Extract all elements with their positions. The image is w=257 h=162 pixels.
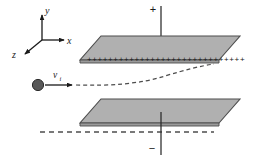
x-axis-label: x [66,35,72,46]
initial-velocity-label: v [53,70,58,80]
bottom-plate-group [80,99,240,126]
y-axis-label: y [44,5,50,16]
figure-canvas: y x z + ++++++++++++++++++++++++++++++ v… [0,0,257,162]
bottom-plate-front-edge [80,123,219,126]
positive-terminal-label: + [150,3,156,15]
charged-particle [32,79,43,90]
negative-terminal-label: − [149,142,155,154]
z-axis-arrow [25,40,42,54]
physics-diagram: y x z + ++++++++++++++++++++++++++++++ v… [0,0,257,162]
incoming-particle-group: v i [32,70,72,91]
particle-trajectory-path [76,64,214,85]
negatively-charged-plate [80,99,240,123]
initial-velocity-subscript: i [60,75,62,82]
z-axis-label: z [11,49,16,60]
top-plate-charge-row: ++++++++++++++++++++++++++++++ [87,55,245,64]
coordinate-axes: y x z [11,5,72,60]
